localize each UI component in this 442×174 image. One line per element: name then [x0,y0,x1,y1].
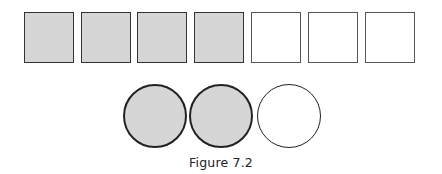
shaded-square [24,12,74,63]
figure-caption: Figure 7.2 [0,155,442,170]
empty-circle [257,84,321,148]
shaded-square [137,12,187,63]
shaded-square [81,12,131,63]
shaded-circle [123,84,187,148]
empty-square [308,12,358,63]
empty-square [365,12,415,63]
shaded-square [194,12,244,63]
empty-square [251,12,301,63]
shaded-circle [189,84,253,148]
